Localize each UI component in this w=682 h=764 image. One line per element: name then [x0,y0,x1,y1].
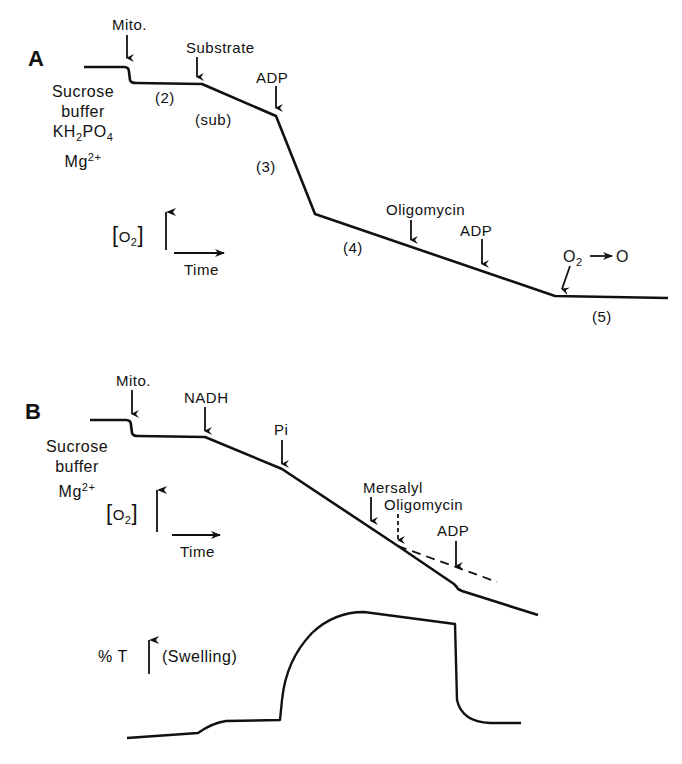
a-x-axis-label: Time [184,261,219,278]
panel-a-conditions: Sucrose buffer KH2PO4 Mg2+ [38,82,128,173]
b-oligomycin-label: Oligomycin [384,496,463,513]
state-3-label: (3) [256,158,276,175]
panel-b-label: B [25,403,41,420]
swelling-trace [127,612,521,738]
swelling-note: (Swelling) [162,648,237,665]
panel-a-axes-indicator [166,212,224,253]
b-pi-label: Pi [274,421,288,438]
condition-kh2po4: KH2PO4 [38,122,128,147]
condition-buffer: buffer [32,457,122,477]
panel-b-dashed-extrapolation [398,546,497,582]
a-substrate-label: Substrate [186,39,255,56]
state-4-label: (4) [343,239,363,256]
b-x-axis-label: Time [180,543,215,560]
a-adp2-label: ADP [460,222,492,239]
b-nadh-label: NADH [184,389,229,406]
a-oligomycin-label: Oligomycin [386,201,465,218]
condition-mg: Mg2+ [32,477,122,502]
a-y-axis-label: [O2] [112,226,144,251]
condition-buffer: buffer [38,102,128,122]
b-adp-label: ADP [437,522,469,539]
panel-b-conditions: Sucrose buffer Mg2+ [32,437,122,502]
b-mersalyl-label: Mersalyl [363,479,423,496]
a-adp-label: ADP [256,69,288,86]
panel-b-axes-indicator [157,490,220,535]
condition-sucrose: Sucrose [38,82,128,102]
condition-sucrose: Sucrose [32,437,122,457]
state-5-label: (5) [592,308,612,325]
panel-a-arrows [127,35,612,289]
state-2-label: (2) [155,89,175,106]
a-o2-depletion-label: O2 [563,248,583,271]
condition-mg: Mg2+ [38,147,128,172]
a-o-label: O [616,248,629,265]
b-y-axis-label: [O2] [106,504,138,529]
swelling-y-label: % T [98,648,128,665]
state-sub-label: (sub) [195,111,232,128]
panel-a-label: A [28,50,44,67]
b-mito-label: Mito. [116,372,151,389]
a-mito-label: Mito. [112,16,147,33]
